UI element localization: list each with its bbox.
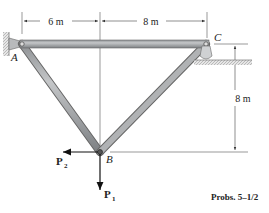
dimension-label-8m-horizontal: 8 m [143, 16, 159, 27]
dimension-6m: 6 m [24, 16, 98, 27]
load-p2: P 2 [56, 152, 98, 170]
figure-caption: Probs. 5–1/2 [211, 192, 259, 202]
truss-diagram: 6 m 8 m 8 m A B C [0, 0, 269, 213]
rocker-support-c [194, 46, 252, 65]
node-label-b: B [106, 153, 113, 165]
load-label-p2: P [56, 155, 63, 167]
pin-b [98, 150, 103, 155]
dimension-8m-horizontal: 8 m [102, 16, 205, 27]
node-label-a: A [10, 51, 18, 63]
load-subscript-p2: 2 [64, 162, 68, 170]
dimension-label-8m-vertical: 8 m [235, 93, 251, 104]
dimension-label-6m: 6 m [48, 16, 64, 27]
node-label-c: C [214, 31, 222, 43]
load-subscript-p1: 1 [112, 195, 116, 203]
pin-a [20, 42, 24, 46]
pin-c [204, 42, 208, 46]
load-label-p1: P [104, 188, 111, 200]
truss-members [20, 40, 209, 152]
